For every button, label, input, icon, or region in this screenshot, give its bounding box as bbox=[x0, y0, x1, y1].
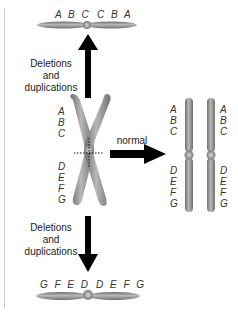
normal-chromosome-2 bbox=[207, 98, 216, 212]
normal-label: normal bbox=[114, 135, 150, 147]
gene-label: B bbox=[58, 118, 65, 128]
caption-line: duplications bbox=[22, 82, 80, 94]
arrow-up bbox=[78, 34, 98, 98]
caption-line: Deletions bbox=[22, 222, 80, 234]
diagram-graphics bbox=[0, 0, 238, 313]
gene-label: B bbox=[170, 116, 177, 126]
gene-label: C bbox=[220, 127, 227, 137]
gene-label: F bbox=[170, 188, 176, 198]
gene-label: A bbox=[170, 105, 177, 115]
bottom-genes-right: D E F G bbox=[96, 279, 146, 290]
gene-label: A bbox=[220, 105, 227, 115]
gene-label: C bbox=[58, 129, 65, 139]
gene-label: F bbox=[58, 184, 64, 194]
gene-label: G bbox=[220, 199, 228, 209]
gene-label: E bbox=[170, 177, 177, 187]
top-genes-left: A B C bbox=[55, 9, 91, 20]
x-chromosome bbox=[70, 94, 110, 206]
top-chromosome bbox=[37, 21, 137, 29]
gene-label: A bbox=[58, 107, 65, 117]
caption-line: and bbox=[22, 70, 80, 82]
gene-label: B bbox=[220, 116, 227, 126]
gene-label: C bbox=[170, 127, 177, 137]
gene-label: F bbox=[220, 188, 226, 198]
top-genes-right: C B A bbox=[97, 9, 133, 20]
gene-label: D bbox=[170, 166, 177, 176]
caption-line: and bbox=[22, 234, 80, 246]
gene-label: E bbox=[58, 173, 65, 183]
gene-label: G bbox=[58, 195, 66, 205]
normal-chromosome-1 bbox=[185, 98, 194, 212]
caption-line: duplications bbox=[22, 246, 80, 258]
arrow-down bbox=[78, 216, 98, 272]
arrow-right bbox=[110, 144, 166, 164]
bottom-genes-left: G F E D bbox=[40, 279, 90, 290]
bottom-caption: Deletions and duplications bbox=[22, 222, 80, 258]
caption-line: Deletions bbox=[22, 58, 80, 70]
bottom-chromosome bbox=[36, 290, 140, 300]
gene-label: G bbox=[170, 199, 178, 209]
gene-label: E bbox=[220, 177, 227, 187]
gene-label: D bbox=[58, 162, 65, 172]
gene-label: D bbox=[220, 166, 227, 176]
top-caption: Deletions and duplications bbox=[22, 58, 80, 94]
